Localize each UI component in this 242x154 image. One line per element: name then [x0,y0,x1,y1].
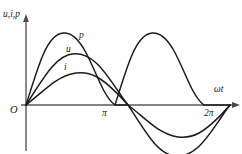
waveform-plot: u,i,p ωt O π 2π p u i [0,0,242,154]
curve-p [26,33,204,105]
y-axis-label: u,i,p [3,9,20,19]
origin-label: O [10,104,18,115]
y-axis-arrow-icon [23,14,29,22]
curve-u [26,54,230,154]
ac-waveform-figure: u,i,p ωt O π 2π p u i [0,0,242,154]
tick-label-2pi: 2π [204,108,214,118]
curve-label-i: i [64,62,67,72]
x-axis-label: ωt [214,84,224,94]
x-axis-arrow-icon [232,102,240,108]
tick-label-pi: π [102,108,107,118]
curve-label-u: u [66,44,71,54]
curve-label-p: p [78,30,84,40]
